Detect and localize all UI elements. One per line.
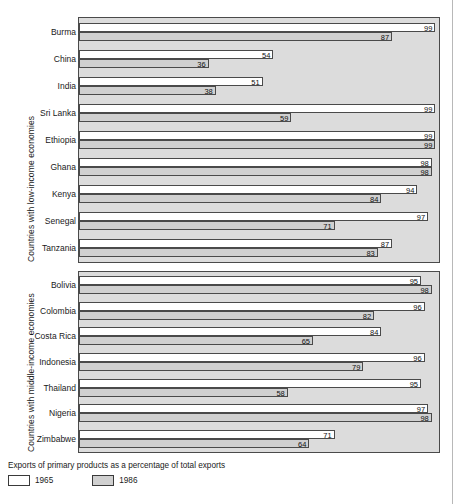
legend-items: 1965 1986 bbox=[8, 475, 308, 486]
bar-1965: 94 bbox=[79, 185, 417, 194]
bar-1965: 54 bbox=[79, 50, 273, 59]
chart-legend: Exports of primary products as a percent… bbox=[8, 461, 308, 486]
chart-row: India5138 bbox=[79, 72, 439, 99]
bar-1986: 98 bbox=[79, 167, 432, 176]
bar-1986: 83 bbox=[79, 248, 378, 257]
bar-value-label: 59 bbox=[280, 114, 288, 123]
axis-title-low-income: Countries with low-income economies bbox=[26, 116, 36, 262]
chart-page: Countries with low-income economies Coun… bbox=[0, 0, 460, 504]
bar-slot: 98 bbox=[79, 285, 439, 294]
bar-slot: 98 bbox=[79, 167, 439, 176]
bar-1965: 51 bbox=[79, 77, 263, 86]
bar-slot: 95 bbox=[79, 379, 439, 388]
category-label: Nigeria bbox=[49, 408, 76, 418]
bar-1965: 99 bbox=[79, 23, 435, 32]
bar-value-label: 38 bbox=[204, 87, 212, 96]
bar-value-label: 99 bbox=[424, 141, 432, 150]
chart-panel-middle-income: Bolivia9598Colombia9682Costa Rica8465Ind… bbox=[78, 271, 440, 453]
bar-1986: 98 bbox=[79, 413, 432, 422]
bar-1986: 98 bbox=[79, 285, 432, 294]
category-label: Indonesia bbox=[39, 357, 76, 367]
bar-1986: 59 bbox=[79, 113, 291, 122]
bar-slot: 99 bbox=[79, 23, 439, 32]
bar-1965: 87 bbox=[79, 239, 392, 248]
bar-slot: 71 bbox=[79, 430, 439, 439]
bar-slot: 99 bbox=[79, 140, 439, 149]
bar-1965: 84 bbox=[79, 327, 381, 336]
bar-1965: 97 bbox=[79, 404, 428, 413]
bar-slot: 84 bbox=[79, 327, 439, 336]
category-label: Ethiopia bbox=[45, 135, 76, 145]
bar-value-label: 98 bbox=[420, 414, 428, 423]
chart-row: Nigeria9798 bbox=[79, 401, 439, 427]
category-label: Colombia bbox=[40, 306, 76, 316]
chart-row: Colombia9682 bbox=[79, 298, 439, 324]
chart-row: Indonesia9679 bbox=[79, 349, 439, 375]
category-label: Ghana bbox=[50, 162, 76, 172]
chart-row: Zimbabwe7164 bbox=[79, 426, 439, 452]
bar-value-label: 87 bbox=[381, 33, 389, 42]
chart-panel-low-income: Burma9987China5436India5138Sri Lanka9959… bbox=[78, 17, 440, 263]
bar-1965: 95 bbox=[79, 379, 421, 388]
bar-1965: 96 bbox=[79, 353, 425, 362]
bar-slot: 97 bbox=[79, 212, 439, 221]
bar-slot: 79 bbox=[79, 362, 439, 371]
bar-value-label: 58 bbox=[276, 389, 284, 398]
chart-row: Tanzania8783 bbox=[79, 235, 439, 262]
bar-slot: 59 bbox=[79, 113, 439, 122]
bar-1965: 99 bbox=[79, 104, 435, 113]
bar-slot: 84 bbox=[79, 194, 439, 203]
bar-value-label: 82 bbox=[363, 312, 371, 321]
legend-item-1986: 1986 bbox=[92, 475, 137, 486]
category-label: Kenya bbox=[52, 189, 76, 199]
bar-slot: 87 bbox=[79, 239, 439, 248]
bar-1986: 71 bbox=[79, 221, 335, 230]
bar-value-label: 79 bbox=[352, 363, 360, 372]
bar-value-label: 84 bbox=[370, 195, 378, 204]
bar-value-label: 83 bbox=[366, 249, 374, 258]
bar-1986: 82 bbox=[79, 311, 374, 320]
bar-slot: 94 bbox=[79, 185, 439, 194]
bar-1965: 95 bbox=[79, 276, 421, 285]
chart-row: Bolivia9598 bbox=[79, 272, 439, 298]
bar-slot: 95 bbox=[79, 276, 439, 285]
bar-value-label: 36 bbox=[197, 60, 205, 69]
bar-1986: 64 bbox=[79, 439, 309, 448]
chart-row: Costa Rica8465 bbox=[79, 323, 439, 349]
legend-label-1965: 1965 bbox=[35, 476, 53, 485]
bar-value-label: 98 bbox=[420, 286, 428, 295]
bar-1965: 71 bbox=[79, 430, 335, 439]
chart-row: Ethiopia9999 bbox=[79, 126, 439, 153]
chart-row: China5436 bbox=[79, 45, 439, 72]
category-label: Costa Rica bbox=[34, 331, 76, 341]
bar-slot: 65 bbox=[79, 336, 439, 345]
bar-1965: 99 bbox=[79, 131, 435, 140]
category-label: China bbox=[54, 54, 76, 64]
bar-slot: 64 bbox=[79, 439, 439, 448]
legend-label-1986: 1986 bbox=[119, 476, 137, 485]
bar-slot: 98 bbox=[79, 158, 439, 167]
bar-slot: 96 bbox=[79, 353, 439, 362]
bar-1965: 98 bbox=[79, 158, 432, 167]
bar-slot: 99 bbox=[79, 131, 439, 140]
category-label: Zimbabwe bbox=[37, 434, 76, 444]
bar-1986: 87 bbox=[79, 32, 392, 41]
bar-slot: 83 bbox=[79, 248, 439, 257]
bar-slot: 51 bbox=[79, 77, 439, 86]
category-label: India bbox=[58, 81, 76, 91]
gray-swatch-icon bbox=[92, 475, 114, 486]
bar-1965: 97 bbox=[79, 212, 428, 221]
bar-slot: 96 bbox=[79, 302, 439, 311]
bar-slot: 97 bbox=[79, 404, 439, 413]
white-swatch-icon bbox=[8, 475, 30, 486]
category-label: Tanzania bbox=[42, 243, 76, 253]
legend-caption: Exports of primary products as a percent… bbox=[8, 461, 308, 470]
bar-1986: 79 bbox=[79, 362, 363, 371]
bar-slot: 99 bbox=[79, 104, 439, 113]
chart-row: Kenya9484 bbox=[79, 181, 439, 208]
chart-row: Burma9987 bbox=[79, 18, 439, 45]
bar-1986: 99 bbox=[79, 140, 435, 149]
category-label: Sri Lanka bbox=[40, 108, 76, 118]
bar-slot: 82 bbox=[79, 311, 439, 320]
chart-row: Thailand9558 bbox=[79, 375, 439, 401]
